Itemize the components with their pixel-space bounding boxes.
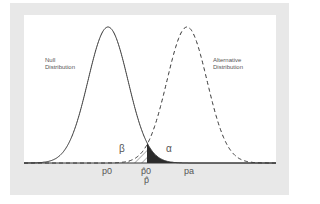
- beta-region: [24, 145, 147, 163]
- beta-label: β: [119, 143, 125, 154]
- alt-label-2: Distribution: [213, 64, 243, 71]
- null-curve: [24, 27, 276, 163]
- alt-label-1: Alternative: [213, 57, 241, 64]
- tick-phat: p̂: [144, 175, 149, 185]
- null-label-2: Distribution: [45, 64, 75, 71]
- null-label-1: Null: [45, 57, 55, 64]
- tick-p0: p0: [102, 166, 112, 176]
- tick-pa: pa: [184, 166, 194, 176]
- alpha-label: α: [166, 143, 172, 154]
- alt-curve: [24, 27, 276, 163]
